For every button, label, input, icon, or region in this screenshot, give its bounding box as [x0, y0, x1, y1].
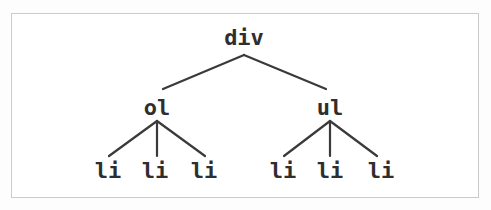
- dom-tree-figure: div ol ul li li li li li li: [0, 0, 491, 210]
- tree-node-div: div: [224, 25, 264, 51]
- tree-node-ul: ul: [317, 95, 344, 121]
- tree-node-li-1: li: [95, 158, 122, 184]
- tree-node-li-4: li: [270, 158, 297, 184]
- tree-node-li-2: li: [142, 158, 169, 184]
- tree-node-ol: ol: [144, 95, 171, 121]
- tree-node-li-5: li: [317, 158, 344, 184]
- tree-node-li-6: li: [368, 158, 395, 184]
- tree-node-li-3: li: [191, 158, 218, 184]
